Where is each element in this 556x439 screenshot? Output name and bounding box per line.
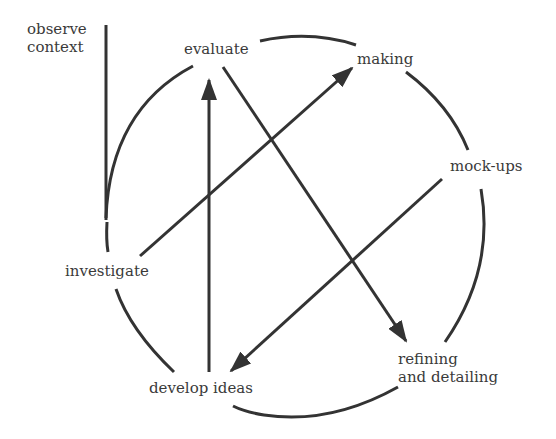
label-observe-context: observe context — [27, 20, 87, 56]
context-line: context — [27, 38, 87, 56]
observe-line: observe — [27, 20, 87, 38]
arrow-investigate-to-making — [140, 68, 352, 256]
refining-line: refining — [398, 350, 498, 368]
label-develop-ideas: develop ideas — [149, 379, 253, 397]
arrow-mockups-to-develop — [231, 179, 442, 371]
label-investigate: investigate — [65, 262, 149, 280]
label-making: making — [357, 50, 413, 68]
label-mock-ups: mock-ups — [450, 157, 523, 175]
label-evaluate: evaluate — [184, 40, 249, 58]
cycle-arc-making-mockups — [406, 72, 468, 150]
cycle-arc-refining-develop — [233, 387, 398, 417]
cycle-arc-investigate-top — [107, 222, 108, 252]
arrow-evaluate-to-refining — [223, 67, 406, 341]
cycle-arc-evaluate-making — [260, 36, 356, 45]
cycle-arc-develop-investigate — [116, 289, 174, 372]
cycle-arc-mockups-refining — [445, 189, 484, 342]
cycle-arc-investigate-evaluate — [106, 66, 193, 218]
label-refining-detailing: refining and detailing — [398, 350, 498, 386]
and-detailing-line: and detailing — [398, 368, 498, 386]
